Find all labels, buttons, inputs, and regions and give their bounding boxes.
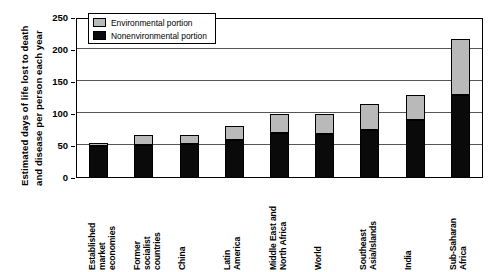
x-axis-label-line: Africa bbox=[458, 246, 468, 270]
bar-segment-nonenvironmental bbox=[406, 120, 425, 178]
x-axis-label: LatinAmerica bbox=[218, 180, 252, 272]
bar-segment-nonenvironmental bbox=[451, 95, 470, 178]
x-axis-label: India bbox=[399, 180, 433, 272]
bar-segment-environmental bbox=[315, 114, 334, 134]
y-tick-mark-100 bbox=[71, 114, 75, 115]
x-axis-label-line: America bbox=[232, 237, 242, 270]
bar-segment-environmental bbox=[270, 114, 289, 133]
x-axis-label: World bbox=[309, 180, 343, 272]
y-tick-mark-50 bbox=[71, 146, 75, 147]
legend-swatch-nonenvironmental-icon bbox=[93, 31, 106, 40]
x-axis-label-line: World bbox=[313, 246, 323, 270]
bar-group bbox=[89, 143, 108, 178]
bar-segment-nonenvironmental bbox=[360, 130, 379, 178]
x-axis-label-line: Asia/Islands bbox=[368, 221, 378, 270]
x-axis-label-line: Latin bbox=[222, 250, 232, 270]
x-axis-label: SoutheastAsia/Islands bbox=[354, 180, 388, 272]
bar-group bbox=[451, 38, 470, 178]
bar-segment-environmental bbox=[360, 104, 379, 130]
x-axis-label: Establishedmarketeconomies bbox=[83, 180, 117, 272]
bar-group bbox=[225, 126, 244, 178]
bar-segment-nonenvironmental bbox=[89, 146, 108, 178]
y-axis-title: Estimated days of life lost to death and… bbox=[0, 0, 56, 190]
legend-label-environmental: Environmental portion bbox=[111, 18, 192, 28]
legend-swatch-environmental-icon bbox=[93, 18, 106, 27]
bar-segment-nonenvironmental bbox=[270, 133, 289, 178]
y-tick-mark-200 bbox=[71, 50, 75, 51]
x-axis-label-line: socialist bbox=[142, 237, 152, 271]
bar-group bbox=[134, 135, 153, 178]
x-axis-label-line: India bbox=[403, 250, 413, 270]
bar-segment-environmental bbox=[225, 126, 244, 140]
x-axis-label-line: Former bbox=[132, 241, 142, 270]
bar-segment-environmental bbox=[406, 95, 425, 121]
x-axis-label-line: economies bbox=[107, 226, 117, 270]
bar-segment-environmental bbox=[134, 135, 153, 145]
chart-legend: Environmental portion Nonenvironmental p… bbox=[88, 13, 216, 44]
x-axis-label-line: China bbox=[177, 247, 187, 270]
x-axis-label-line: Sub-Saharan bbox=[448, 218, 458, 270]
bar-segment-nonenvironmental bbox=[225, 140, 244, 178]
x-axis-label: Middle East andNorth Africa bbox=[264, 180, 298, 272]
x-axis-label: Formersocialistcountries bbox=[128, 180, 162, 272]
bar-group bbox=[180, 134, 199, 178]
bar-segment-nonenvironmental bbox=[315, 134, 334, 178]
x-axis-label-line: Southeast bbox=[358, 229, 368, 270]
x-axis-labels: EstablishedmarketeconomiesFormersocialis… bbox=[76, 180, 483, 272]
bar-segment-environmental bbox=[451, 39, 470, 95]
y-axis-title-line-1: Estimated days of life lost to death bbox=[19, 26, 30, 186]
bar-group bbox=[406, 95, 425, 178]
x-axis-label-line: Middle East and bbox=[268, 206, 278, 270]
y-tick-mark-0 bbox=[71, 178, 75, 179]
legend-item-nonenvironmental: Nonenvironmental portion bbox=[93, 29, 211, 42]
chart-container: Estimated days of life lost to death and… bbox=[0, 0, 497, 272]
bar-group bbox=[270, 114, 289, 178]
x-axis-label: Sub-SaharanAfrica bbox=[444, 180, 478, 272]
x-axis-label-line: market bbox=[97, 242, 107, 270]
x-axis-label-line: North Africa bbox=[278, 222, 288, 270]
bar-segment-nonenvironmental bbox=[180, 144, 199, 178]
y-axis-title-line-2: and disease per person each year bbox=[33, 30, 44, 186]
x-axis-label: China bbox=[173, 180, 207, 272]
legend-label-nonenvironmental: Nonenvironmental portion bbox=[111, 31, 207, 41]
x-axis-label-line: countries bbox=[152, 232, 162, 270]
x-axis-label-line: Established bbox=[87, 223, 97, 270]
bar-segment-environmental bbox=[89, 143, 108, 146]
bar-group bbox=[315, 114, 334, 178]
y-tick-mark-150 bbox=[71, 82, 75, 83]
bar-group bbox=[360, 104, 379, 178]
legend-item-environmental: Environmental portion bbox=[93, 16, 211, 29]
y-tick-mark-250 bbox=[71, 18, 75, 19]
bar-segment-nonenvironmental bbox=[134, 145, 153, 178]
bar-segment-environmental bbox=[180, 135, 199, 145]
